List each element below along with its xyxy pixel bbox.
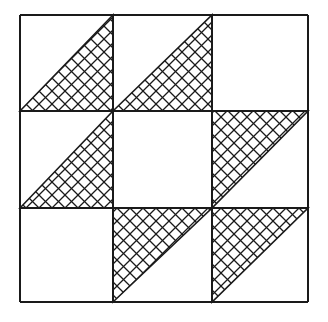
- grid-lines: [20, 15, 308, 302]
- hatched-triangles: [20, 15, 308, 302]
- hatched-triangle: [113, 15, 212, 111]
- hatched-triangle: [20, 15, 113, 111]
- hatched-triangle: [212, 111, 308, 208]
- hatched-triangle: [113, 208, 212, 302]
- hatched-triangle: [212, 208, 308, 302]
- hatched-triangle: [20, 111, 113, 208]
- quilt-block-diagram: [0, 0, 328, 322]
